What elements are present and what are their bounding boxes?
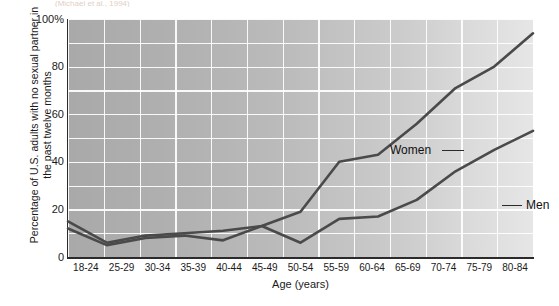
x-tick-18-24: 18-24	[68, 261, 104, 277]
plot-area: Women Men	[68, 19, 533, 257]
cropped-source-caption: (Michael et al., 1994)	[55, 0, 235, 7]
x-axis-title: Age (years)	[68, 278, 533, 290]
y-tick-60: 60	[12, 109, 64, 120]
x-tick-25-29: 25-29	[104, 261, 140, 277]
x-tick-75-79: 75-79	[461, 261, 497, 277]
x-tick-70-74: 70-74	[426, 261, 462, 277]
y-tick-100: 100%	[12, 14, 64, 25]
leader-line-women	[442, 150, 464, 151]
line-men	[68, 131, 533, 245]
leader-line-men	[502, 205, 522, 206]
series-lines	[68, 19, 533, 257]
y-tick-20: 20	[12, 204, 64, 215]
x-tick-60-64: 60-64	[354, 261, 390, 277]
x-tick-30-34: 30-34	[140, 261, 176, 277]
y-axis-tick-labels: 020406080100%	[6, 0, 64, 306]
x-tick-40-44: 40-44	[211, 261, 247, 277]
x-tick-80-84: 80-84	[497, 261, 533, 277]
x-tick-35-39: 35-39	[175, 261, 211, 277]
x-tick-65-69: 65-69	[390, 261, 426, 277]
x-axis-tick-labels: 18-2425-2930-3435-3940-4445-4950-5455-59…	[68, 261, 533, 277]
y-tick-0: 0	[12, 252, 64, 263]
y-tick-80: 80	[12, 61, 64, 72]
y-tick-40: 40	[12, 156, 64, 167]
line-women	[68, 33, 533, 242]
x-tick-50-54: 50-54	[283, 261, 319, 277]
series-label-women: Women	[390, 144, 431, 156]
x-tick-45-49: 45-49	[247, 261, 283, 277]
x-tick-55-59: 55-59	[318, 261, 354, 277]
series-label-men: Men	[526, 199, 549, 211]
